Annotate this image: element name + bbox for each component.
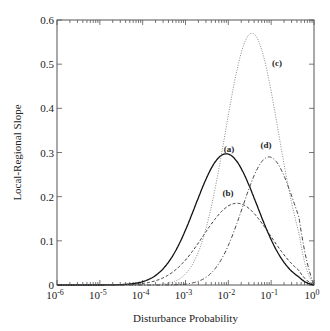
y-tick-label: 0.6 (40, 14, 54, 26)
y-tick-label: 0.1 (40, 235, 54, 247)
plot-curves (57, 33, 314, 285)
x-tick-label: 10-3 (175, 288, 193, 301)
chart: 10-610-510-410-310-210-110000.10.20.30.4… (0, 0, 330, 331)
y-tick-label: 0 (49, 279, 55, 291)
y-tick-label: 0.5 (40, 58, 54, 70)
x-tick-label: 100 (305, 288, 320, 301)
x-tick-label: 10-2 (217, 288, 235, 301)
x-tick-label: 10-5 (89, 288, 107, 301)
x-axis-label: Disturbance Probability (133, 312, 238, 324)
series-label-b: (b) (223, 188, 234, 198)
series-d (57, 157, 314, 285)
series-label-c: (c) (272, 58, 282, 68)
y-tick-label: 0.4 (40, 102, 54, 114)
series-a (57, 154, 314, 285)
x-tick-label: 10-4 (132, 288, 150, 301)
x-tick-label: 10-1 (260, 288, 278, 301)
y-tick-label: 0.2 (40, 191, 54, 203)
y-tick-label: 0.3 (40, 147, 54, 159)
y-axis-label: Local-Regional Slope (11, 104, 23, 200)
series-label-d: (d) (261, 140, 272, 150)
series-label-a: (a) (224, 144, 235, 154)
series-b (57, 203, 314, 285)
